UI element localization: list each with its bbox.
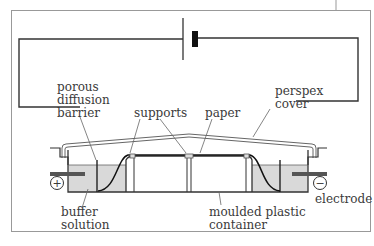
svg-text:moulded plastic: moulded plastic <box>209 205 306 219</box>
svg-text:perspex: perspex <box>275 84 323 98</box>
positive-terminal-icon: + <box>51 177 64 191</box>
label-moulded-plastic-container: moulded plastic container <box>209 205 306 232</box>
label-supports: supports <box>134 106 187 120</box>
electrophoresis-diagram: + − porous diffusion barrier supports pa… <box>0 0 374 246</box>
svg-text:+: + <box>52 177 61 190</box>
svg-text:solution: solution <box>61 218 110 232</box>
label-perspex-cover: perspex cover <box>275 84 323 111</box>
battery-icon <box>183 18 198 60</box>
svg-text:container: container <box>209 218 267 232</box>
svg-text:buffer: buffer <box>61 205 98 219</box>
svg-text:porous: porous <box>57 80 99 94</box>
label-porous-diffusion-barrier: porous diffusion barrier <box>57 80 110 120</box>
label-paper: paper <box>205 106 241 120</box>
svg-text:diffusion: diffusion <box>57 93 110 107</box>
leader-lines <box>80 109 270 208</box>
electrode-right <box>292 172 327 176</box>
svg-text:cover: cover <box>275 97 309 111</box>
electrode-left <box>50 172 85 176</box>
label-buffer-solution: buffer solution <box>61 205 110 232</box>
svg-text:−: − <box>315 177 324 190</box>
svg-text:barrier: barrier <box>57 106 100 120</box>
negative-terminal-icon: − <box>314 177 327 191</box>
label-electrode: electrode <box>315 192 372 206</box>
